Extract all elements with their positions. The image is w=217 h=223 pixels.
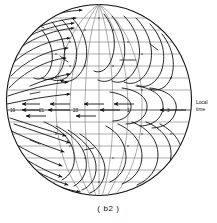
local-time-axis-note: Local time [196, 100, 207, 112]
tick-label-21: 21 [39, 108, 45, 113]
tick-label-23: 23 [73, 108, 79, 113]
tick-label-3: 3 [167, 108, 170, 113]
tick-label-1: 1 [127, 108, 130, 113]
tick-label-19: 19 [10, 108, 16, 113]
axis-note-line1: Local [196, 100, 207, 105]
axis-note-line2: time [196, 107, 205, 112]
figure-container: 19 21 23 1 3 Local time ( b2 ) [0, 0, 217, 223]
convection-pattern-figure: 19 21 23 1 3 Local time [0, 0, 217, 223]
figure-caption: ( b2 ) [0, 204, 217, 213]
